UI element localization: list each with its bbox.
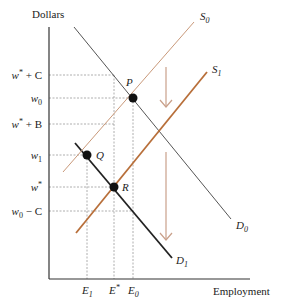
curve-label-s1: S1 [212, 63, 222, 78]
point-q [83, 151, 92, 160]
demand-curve-d0 [74, 27, 231, 219]
curve-label-d1: D1 [175, 254, 188, 269]
y-tick-w-star-plus-c: w* + C [12, 68, 42, 81]
y-tick-w0-minus-c: w0 − C [12, 205, 42, 220]
y-tick-w0: w0 [31, 92, 42, 107]
labor-market-diagram: Dollars Employment P Q R S0 S1 D0 D1 w* … [0, 0, 281, 308]
curve-label-s0: S0 [200, 10, 210, 25]
point-q-label: Q [96, 149, 104, 161]
point-r-label: R [121, 181, 129, 193]
y-axis-label: Dollars [32, 8, 64, 20]
x-tick-e0: E0 [127, 284, 139, 299]
x-tick-e1: E1 [81, 284, 93, 299]
x-tick-e-star: E* [108, 283, 120, 296]
y-tick-w-star-plus-b: w* + B [12, 117, 42, 130]
point-r [110, 183, 119, 192]
point-p [129, 94, 138, 103]
y-tick-w1: w1 [31, 149, 42, 164]
demand-curve-d1 [75, 143, 172, 258]
point-p-label: P [125, 76, 133, 88]
x-axis-label: Employment [213, 285, 270, 297]
curve-label-d0: D0 [235, 219, 248, 234]
y-tick-w-star: w* [31, 180, 42, 193]
shift-arrows [160, 67, 172, 240]
